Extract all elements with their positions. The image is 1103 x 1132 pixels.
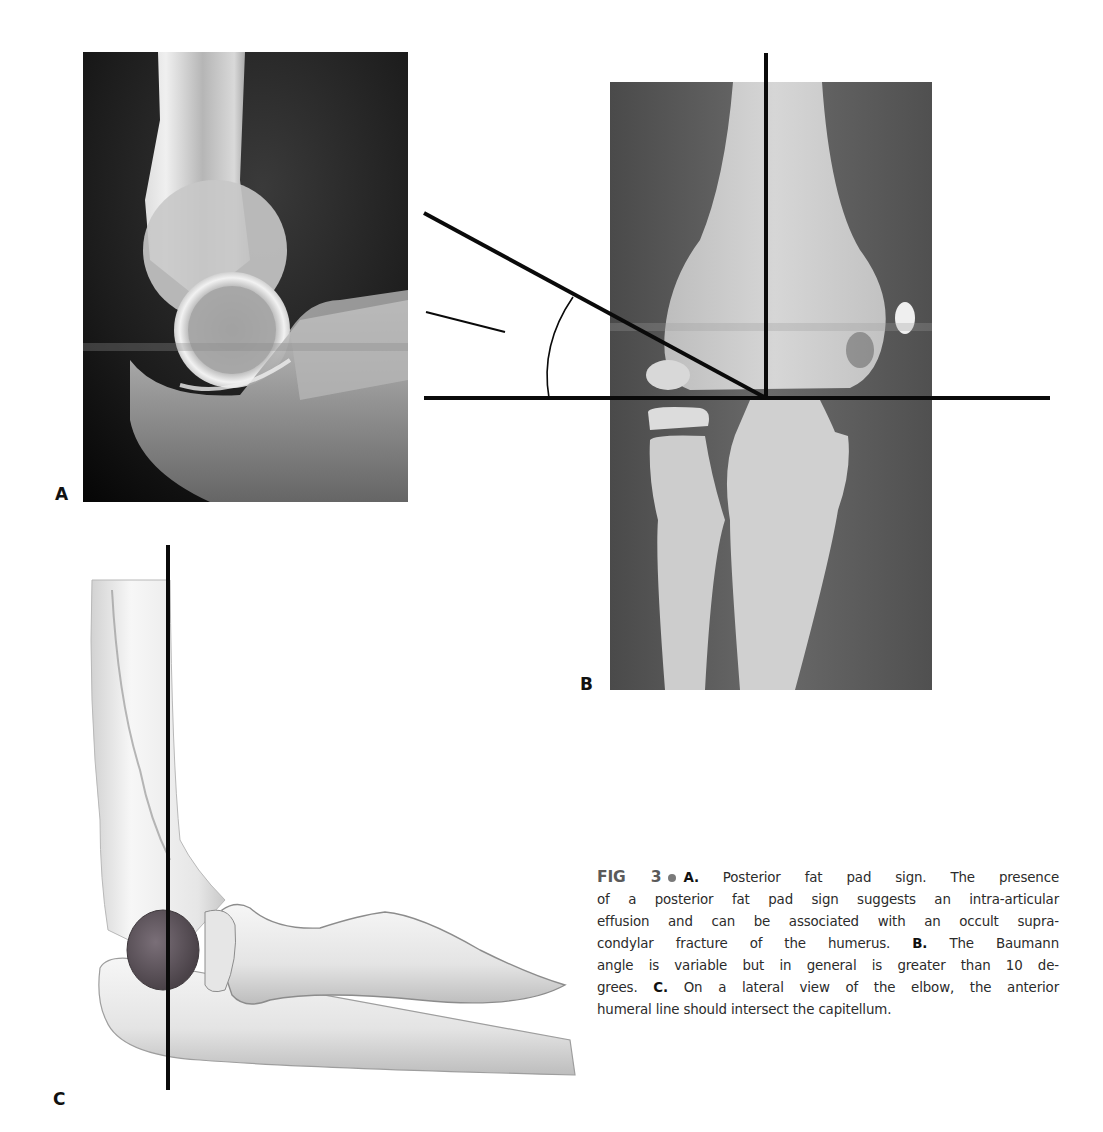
caption-key-a: A. [683,870,698,885]
caption-key-c: C. [653,980,668,995]
panel-a-label: A [55,484,69,504]
caption-line-4: condylar fracture of the humerus. B. The… [597,933,1059,955]
panel-c-illustration [91,580,575,1075]
panel-b-label: B [580,674,593,694]
caption-text: The Baumann [927,936,1059,951]
figure-caption: FIG 3A. Posterior fat pad sign. The pres… [597,866,1059,1021]
panel-c-label: C [53,1089,65,1109]
caption-text: condylar fracture of the humerus. [597,936,912,951]
caption-line-6: grees. C. On a lateral view of the elbow… [597,977,1059,999]
caption-text: effusion and can be associated with an o… [597,914,1059,929]
panel-a-radiograph [83,52,408,502]
angle-arc [547,297,573,398]
caption-text: humeral line should intersect the capite… [597,1002,891,1017]
caption-text: grees. [597,980,653,995]
caption-line-3: effusion and can be associated with an o… [597,911,1059,933]
bullet-icon [668,874,676,882]
caption-key-b: B. [912,936,927,951]
figure-number: FIG 3 [597,868,661,886]
caption-text: angle is variable but in general is grea… [597,958,1059,973]
caption-line-2: of a posterior fat pad sign suggests an … [597,889,1059,911]
angle-pointer-line [426,312,505,332]
caption-line-5: angle is variable but in general is grea… [597,955,1059,977]
caption-line-7: humeral line should intersect the capite… [597,999,1059,1021]
caption-text: On a lateral view of the elbow, the ante… [668,980,1059,995]
caption-text: Posterior fat pad sign. The presence [699,870,1059,885]
capitellum [127,910,199,990]
caption-text: of a posterior fat pad sign suggests an … [597,892,1059,907]
caption-line-1: FIG 3A. Posterior fat pad sign. The pres… [597,866,1059,889]
panel-b-radiograph [610,82,932,690]
